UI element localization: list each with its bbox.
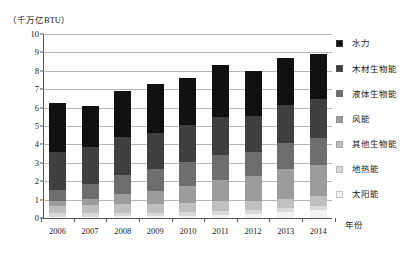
x-axis-tick-label: 2011 — [212, 227, 229, 236]
bar-segment — [49, 217, 66, 218]
plot-area: 012345678910 200620072008200920102011201… — [43, 34, 332, 219]
legend-swatch-icon — [336, 90, 343, 97]
x-axis-tick-mark — [204, 218, 205, 222]
x-axis-tick-label: 2006 — [49, 227, 66, 236]
x-axis-tick-label: 2009 — [147, 227, 164, 236]
bar-segment — [277, 105, 294, 143]
legend-swatch-icon — [336, 191, 343, 198]
bar-segment — [310, 138, 327, 165]
bar-segment — [245, 176, 262, 201]
legend-swatch-icon — [336, 40, 343, 47]
bar-segment — [82, 205, 99, 213]
y-axis-tick-label: 4 — [35, 140, 39, 149]
bar-segment — [49, 206, 66, 214]
x-axis-tick-mark — [172, 218, 173, 222]
legend-item: 液体生物能 — [336, 81, 414, 106]
legend-label: 液体生物能 — [352, 90, 397, 99]
legend-swatch-icon — [336, 65, 343, 72]
legend-label: 地热能 — [352, 165, 379, 174]
x-axis-tick-label: 2013 — [277, 227, 294, 236]
bar-column — [277, 58, 294, 218]
bar-segment — [179, 186, 196, 203]
legend-label: 水力 — [352, 39, 370, 48]
x-axis-tick-mark — [237, 218, 238, 222]
bar-segment — [310, 165, 327, 197]
legend-item: 风能 — [336, 107, 414, 132]
bar-segment — [114, 137, 131, 175]
x-axis-tick-mark — [335, 218, 336, 222]
legend-swatch-icon — [336, 116, 343, 123]
x-axis-tick-label: 2008 — [114, 227, 131, 236]
bar-segment — [147, 204, 164, 213]
bar-segment — [245, 214, 262, 218]
x-axis-tick-mark — [139, 218, 140, 222]
y-axis-tick-label: 1 — [35, 195, 39, 204]
bar-segment — [147, 133, 164, 169]
y-axis-tick-label: 3 — [35, 159, 39, 168]
bar-segment — [179, 162, 196, 186]
x-axis-tick-mark — [106, 218, 107, 222]
legend-item: 木材生物能 — [336, 56, 414, 81]
bars-layer — [43, 34, 332, 219]
bar-column — [245, 71, 262, 218]
legend-label: 木材生物能 — [352, 65, 397, 74]
bar-segment — [277, 199, 294, 208]
bar-segment — [310, 210, 327, 218]
bar-segment — [82, 106, 99, 147]
bar-segment — [179, 78, 196, 125]
y-axis-tick-label: 6 — [35, 103, 39, 112]
bar-segment — [310, 99, 327, 137]
y-axis-tick-label: 7 — [35, 85, 39, 94]
x-axis-tick-label: 2014 — [310, 227, 327, 236]
bar-segment — [212, 65, 229, 117]
bar-segment — [147, 84, 164, 133]
bar-segment — [114, 204, 131, 212]
bar-segment — [212, 117, 229, 154]
bar-segment — [245, 71, 262, 116]
legend-item: 太阳能 — [336, 182, 414, 207]
bar-column — [82, 106, 99, 218]
bar-column — [310, 54, 327, 218]
bar-segment — [114, 175, 131, 195]
bar-segment — [310, 196, 327, 206]
bar-segment — [212, 180, 229, 202]
bar-segment — [114, 91, 131, 137]
bar-segment — [310, 54, 327, 100]
bar-segment — [49, 152, 66, 190]
x-axis-tick-mark — [302, 218, 303, 222]
bar-column — [49, 103, 66, 218]
legend-label: 其他生物能 — [352, 140, 397, 149]
bar-segment — [147, 169, 164, 191]
bar-segment — [82, 217, 99, 218]
y-axis-tick-label: 10 — [31, 30, 40, 39]
bar-column — [147, 84, 164, 218]
bar-segment — [147, 216, 164, 218]
bar-segment — [245, 201, 262, 210]
bar-segment — [277, 58, 294, 105]
bar-column — [114, 91, 131, 218]
bar-segment — [147, 191, 164, 204]
bar-segment — [277, 143, 294, 169]
y-axis-unit-label: （千万亿BTU） — [8, 13, 70, 25]
bar-segment — [277, 169, 294, 198]
y-axis-tick-label: 9 — [35, 48, 39, 57]
bar-segment — [179, 203, 196, 212]
bar-segment — [212, 155, 229, 180]
legend-label: 风能 — [352, 115, 370, 124]
x-axis-tick-mark — [269, 218, 270, 222]
x-axis-tick-label: 2012 — [245, 227, 262, 236]
bar-segment — [179, 125, 196, 162]
legend-swatch-icon — [336, 166, 343, 173]
legend-item: 地热能 — [336, 157, 414, 182]
x-axis-tick-label: 2010 — [179, 227, 196, 236]
y-axis-tick-label: 0 — [35, 214, 39, 223]
x-axis-tick-label: 2007 — [82, 227, 99, 236]
legend: 水力木材生物能液体生物能风能其他生物能地热能太阳能 — [336, 31, 414, 207]
bar-segment — [179, 216, 196, 218]
y-axis-tick-label: 8 — [35, 67, 39, 76]
bar-segment — [82, 184, 99, 199]
y-axis-tick-label: 5 — [35, 122, 39, 131]
bar-column — [179, 78, 196, 218]
bar-segment — [212, 201, 229, 210]
bar-segment — [114, 194, 131, 204]
